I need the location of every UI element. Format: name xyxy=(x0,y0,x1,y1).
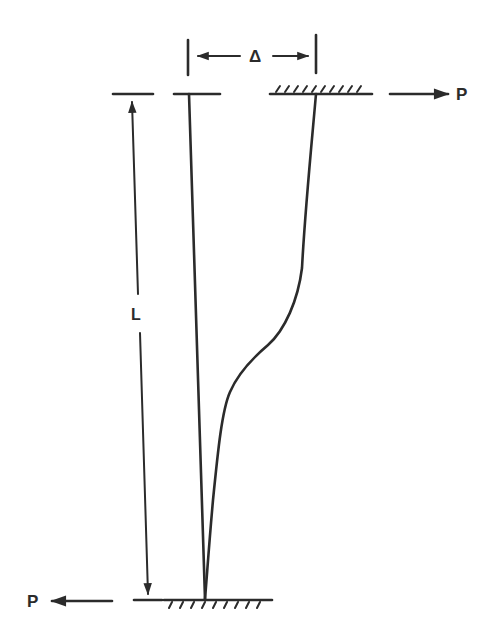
deflected-column-curve xyxy=(205,94,316,599)
load-top-arrow: P xyxy=(390,85,467,104)
delta-dimension: Δ xyxy=(188,35,316,75)
length-label: L xyxy=(131,306,141,323)
length-dimension: L xyxy=(113,94,162,600)
delta-label: Δ xyxy=(249,47,261,66)
load-bottom-label: P xyxy=(27,592,38,611)
base-fixed-support xyxy=(164,600,272,608)
load-top-label: P xyxy=(456,85,467,104)
original-column xyxy=(174,94,220,599)
load-bottom-arrow: P xyxy=(27,592,112,611)
column-deflection-diagram: Δ L P P xyxy=(0,0,496,631)
top-fixed-support xyxy=(270,86,372,94)
